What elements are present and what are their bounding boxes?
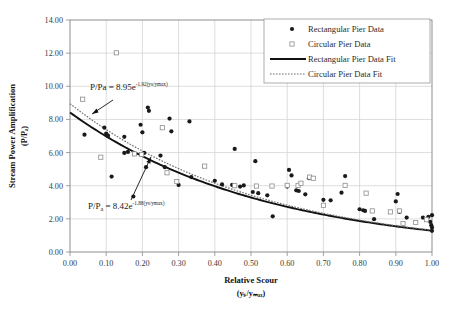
x-tick-label: 0.70: [316, 259, 330, 268]
data-point-circular: [254, 184, 258, 188]
data-point-circular: [175, 179, 179, 183]
data-point-rectangular: [187, 119, 191, 123]
legend-label: Circular Pier Data: [308, 39, 371, 49]
legend-label: Circular Pier Data Fit: [308, 69, 383, 79]
data-point-circular: [364, 191, 368, 195]
x-tick-label: 0.20: [135, 259, 149, 268]
data-point-circular: [388, 210, 392, 214]
data-point-rectangular: [430, 229, 434, 233]
x-axis-title: Relative Scour: [224, 275, 278, 285]
y-tick-label: 0.00: [49, 248, 63, 257]
x-tick-label: 0.00: [63, 259, 77, 268]
y-tick-label: 8.00: [49, 115, 63, 124]
y-tick-label: 12.00: [45, 49, 63, 58]
data-point-circular: [203, 164, 207, 168]
data-point-rectangular: [256, 191, 260, 195]
data-point-rectangular: [343, 174, 347, 178]
data-point-rectangular: [122, 135, 126, 139]
data-point-rectangular: [82, 133, 86, 137]
data-point-circular: [132, 152, 136, 156]
legend-label: Rectangular Pier Data: [308, 24, 384, 34]
data-point-rectangular: [251, 190, 255, 194]
data-point-circular: [165, 171, 169, 175]
data-point-circular: [370, 209, 374, 213]
data-point-rectangular: [405, 215, 409, 219]
data-point-rectangular: [220, 182, 224, 186]
scatter-plot: 0.000.100.200.300.400.500.600.700.800.90…: [0, 0, 454, 312]
data-point-rectangular: [163, 165, 167, 169]
y-tick-label: 2.00: [49, 215, 63, 224]
data-point-rectangular: [138, 123, 142, 127]
data-point-rectangular: [297, 189, 301, 193]
data-point-rectangular: [394, 199, 398, 203]
data-point-rectangular: [289, 173, 293, 177]
x-tick-label: 0.40: [208, 259, 222, 268]
data-point-circular: [160, 126, 164, 130]
data-point-rectangular: [140, 130, 144, 134]
data-point-rectangular: [147, 109, 151, 113]
data-point-circular: [233, 184, 237, 188]
y-tick-label: 10.00: [45, 82, 63, 91]
data-point-circular: [311, 176, 315, 180]
data-point-circular: [270, 184, 274, 188]
data-point-rectangular: [265, 193, 269, 197]
data-point-circular: [114, 51, 118, 55]
y-tick-label: 6.00: [49, 149, 63, 158]
data-point-circular: [99, 155, 103, 159]
data-point-rectangular: [167, 117, 171, 121]
data-point-circular: [285, 183, 289, 187]
data-point-circular: [343, 183, 347, 187]
y-axis-subtitle: (P/Pₐ): [20, 126, 29, 146]
data-point-rectangular: [287, 168, 291, 172]
data-point-rectangular: [126, 150, 130, 154]
data-point-circular: [414, 220, 418, 224]
x-tick-label: 0.50: [244, 259, 258, 268]
data-point-rectangular: [213, 179, 217, 183]
data-point-rectangular: [233, 147, 237, 151]
data-point-circular: [81, 97, 85, 101]
data-point-circular: [424, 218, 428, 222]
data-point-rectangular: [158, 153, 162, 157]
x-tick-label: 1.00: [425, 259, 439, 268]
y-tick-label: 14.00: [45, 16, 63, 25]
legend-marker-circular-data: [290, 42, 294, 46]
data-point-circular: [299, 181, 303, 185]
data-point-rectangular: [242, 183, 246, 187]
data-point-rectangular: [102, 126, 106, 130]
x-axis-subtitle: (yₛ/yₘₐₓ): [237, 289, 266, 298]
data-point-rectangular: [238, 184, 242, 188]
chart-figure: 0.000.100.200.300.400.500.600.700.800.90…: [0, 0, 454, 312]
x-tick-label: 0.30: [171, 259, 185, 268]
data-point-rectangular: [358, 207, 362, 211]
y-axis-title: Stream Power Amplification: [7, 84, 17, 188]
data-point-rectangular: [430, 213, 434, 217]
data-point-circular: [140, 152, 144, 156]
data-point-rectangular: [329, 198, 333, 202]
data-point-rectangular: [253, 159, 257, 163]
data-point-rectangular: [363, 209, 367, 213]
legend-marker-rectangular-data: [290, 27, 294, 31]
data-point-rectangular: [110, 175, 114, 179]
data-point-circular: [321, 203, 325, 207]
data-point-rectangular: [321, 198, 325, 202]
data-point-rectangular: [372, 217, 376, 221]
x-tick-label: 0.10: [99, 259, 113, 268]
data-point-rectangular: [396, 192, 400, 196]
x-tick-label: 0.80: [352, 259, 366, 268]
x-tick-label: 0.60: [280, 259, 294, 268]
data-point-circular: [401, 221, 405, 225]
legend: Rectangular Pier DataCircular Pier DataR…: [264, 19, 430, 83]
y-tick-label: 4.00: [49, 182, 63, 191]
legend-label: Rectangular Pier Data Fit: [308, 54, 396, 64]
data-point-rectangular: [122, 151, 126, 155]
x-tick-label: 0.90: [389, 259, 403, 268]
data-point-rectangular: [106, 134, 110, 138]
data-point-rectangular: [189, 175, 193, 179]
data-point-circular: [397, 209, 401, 213]
data-point-rectangular: [169, 129, 173, 133]
data-point-rectangular: [303, 192, 307, 196]
data-point-rectangular: [271, 214, 275, 218]
data-point-rectangular: [339, 191, 343, 195]
